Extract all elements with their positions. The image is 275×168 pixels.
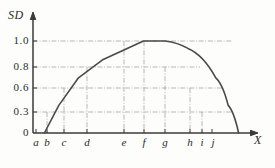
chart-figure: SD X 1.0 0.8 0.6 0.3 0 a b c d e f g h i… [0,0,275,168]
horizontal-gridlines [33,41,233,112]
y-axis-title: SD [8,8,24,23]
sd-curve-line [44,41,238,133]
y-axis-arrowhead [30,12,35,20]
x-tick-label-d: d [80,136,94,148]
y-tick-label-0: 0 [3,126,29,138]
x-tick-label-f: f [137,136,151,148]
x-tick-label-c: c [57,136,71,148]
y-tick-label-1.0: 1.0 [3,34,29,46]
vertical-gridlines [47,41,202,133]
x-tick-label-j: j [206,136,220,148]
y-tick-label-0.8: 0.8 [3,60,29,72]
y-tick-label-0.3: 0.3 [3,105,29,117]
x-tick-label-e: e [117,136,131,148]
y-tick-label-0.6: 0.6 [3,81,29,93]
x-tick-label-g: g [158,136,172,148]
x-tick-label-b: b [40,136,54,148]
x-axis-title: X [254,133,262,148]
